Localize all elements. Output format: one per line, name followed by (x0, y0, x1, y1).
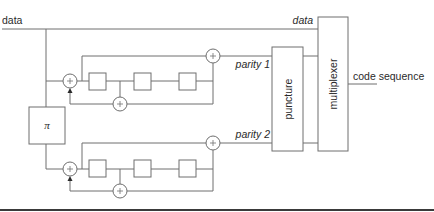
puncture-block: puncture (272, 47, 303, 151)
delay-element-3 (179, 73, 196, 90)
delay-element-1 (89, 160, 106, 177)
encoder-1 (63, 49, 220, 111)
adder-icon (63, 74, 77, 88)
parity2-label: parity 2 (235, 128, 271, 140)
code-sequence-label: code sequence (353, 70, 424, 82)
adder-icon (113, 184, 127, 198)
encoder-2 (63, 136, 220, 198)
data-input-label: data (2, 14, 23, 26)
parity1-label: parity 1 (235, 58, 270, 70)
interleaver-block: π (29, 107, 65, 144)
bottom-rule (0, 209, 434, 211)
delay-element-2 (134, 160, 151, 177)
multiplexer-block: multiplexer (318, 17, 348, 151)
delay-element-3 (179, 160, 196, 177)
adder-icon (113, 97, 127, 111)
turbo-encoder-diagram: data data π (0, 0, 434, 212)
arrow-up-icon (68, 176, 73, 181)
arrow-up-icon (68, 88, 73, 93)
data-output-label: data (293, 14, 314, 26)
delay-element-2 (134, 73, 151, 90)
adder-icon (206, 136, 220, 150)
delay-element-1 (89, 73, 106, 90)
adder-icon (206, 49, 220, 63)
puncture-label: puncture (282, 78, 294, 119)
adder-icon (63, 162, 77, 176)
pi-symbol: π (44, 119, 50, 131)
multiplexer-label: multiplexer (327, 58, 339, 109)
